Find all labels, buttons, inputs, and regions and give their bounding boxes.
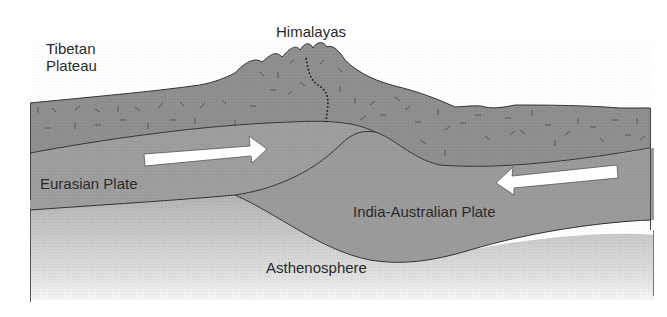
tibetan-plateau-label: Tibetan Plateau	[46, 40, 97, 74]
asthenosphere-label: Asthenosphere	[266, 259, 367, 276]
india-australian-plate-label: India-Australian Plate	[353, 203, 496, 220]
himalayas-label: Himalayas	[276, 23, 346, 40]
tibetan-plateau-label-line1: Tibetan	[46, 40, 97, 57]
tibetan-plateau-label-line2: Plateau	[46, 57, 97, 74]
eurasian-plate-label: Eurasian Plate	[40, 175, 138, 192]
